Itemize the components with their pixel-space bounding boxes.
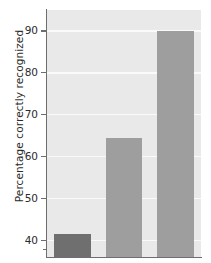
y-tick-label-80: 80 bbox=[0, 67, 38, 78]
y-tick-mark-80 bbox=[41, 72, 47, 73]
y-tick-label-60: 60 bbox=[0, 151, 38, 162]
y-tick-mark-90 bbox=[41, 30, 47, 31]
bar-3 bbox=[157, 31, 194, 257]
y-axis-minor-tick bbox=[43, 249, 47, 250]
y-tick-mark-70 bbox=[41, 114, 47, 115]
y-tick-mark-40 bbox=[41, 240, 47, 241]
y-tick-mark-60 bbox=[41, 156, 47, 157]
y-tick-label-70: 70 bbox=[0, 109, 38, 120]
plot-area bbox=[47, 10, 201, 257]
bar-chart: Percentage correctly recognized 40506070… bbox=[0, 0, 211, 263]
y-tick-label-50: 50 bbox=[0, 193, 38, 204]
y-tick-label-90: 90 bbox=[0, 25, 38, 36]
bar-2 bbox=[106, 138, 143, 257]
x-axis-line bbox=[46, 257, 202, 258]
y-tick-label-40: 40 bbox=[0, 235, 38, 246]
bar-1 bbox=[54, 234, 91, 257]
y-tick-mark-50 bbox=[41, 198, 47, 199]
y-axis-line bbox=[46, 9, 47, 258]
